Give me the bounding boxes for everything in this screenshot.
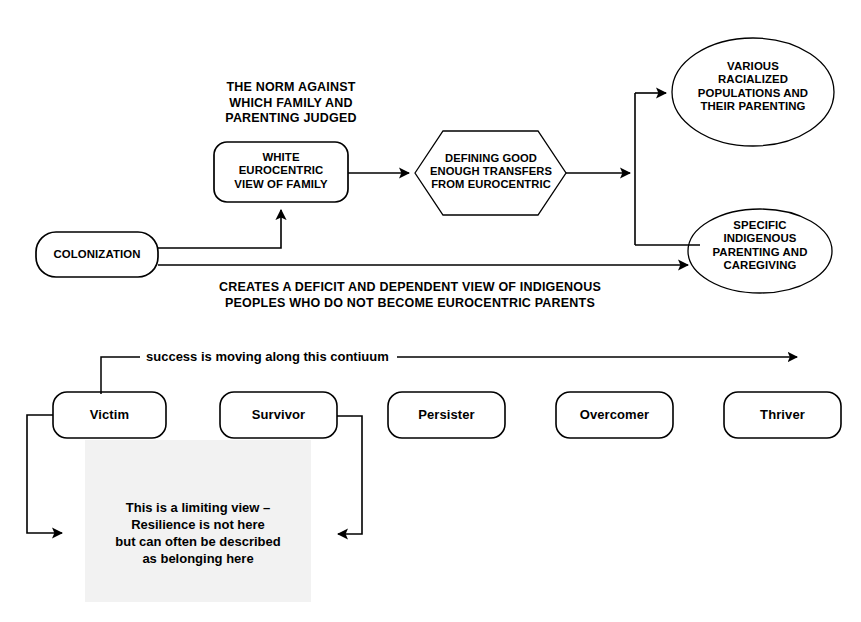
node-white-eurocentric-view-shape	[214, 142, 348, 202]
edge-colonization-to-white-eurocentric	[158, 210, 281, 248]
node-colonization-shape	[36, 232, 158, 277]
annotation-deficit-note: CREATES A DEFICIT AND DEPENDENT VIEW OF …	[175, 280, 645, 311]
edge-survivor-feedback-loop	[337, 416, 362, 534]
node-defining-good-enough-shape	[415, 131, 566, 215]
annotation-norm-note: THE NORM AGAINST WHICH FAMILY AND PARENT…	[181, 80, 401, 127]
continuum-caption: success is moving along this contiuum	[146, 349, 389, 364]
stage-survivor-shape	[220, 392, 337, 438]
stage-persister-shape	[388, 392, 505, 438]
stage-overcomer-shape	[556, 392, 673, 438]
node-racialized-populations-shape	[672, 38, 834, 146]
stage-victim-shape	[53, 392, 166, 438]
limiting-view-note: This is a limiting view – Resilience is …	[78, 500, 318, 568]
node-indigenous-parenting-shape	[688, 209, 832, 293]
continuum-caption-leader-line	[101, 357, 140, 394]
diagram-canvas: THE NORM AGAINST WHICH FAMILY AND PARENT…	[0, 0, 861, 622]
stage-thriver-shape	[724, 392, 841, 438]
